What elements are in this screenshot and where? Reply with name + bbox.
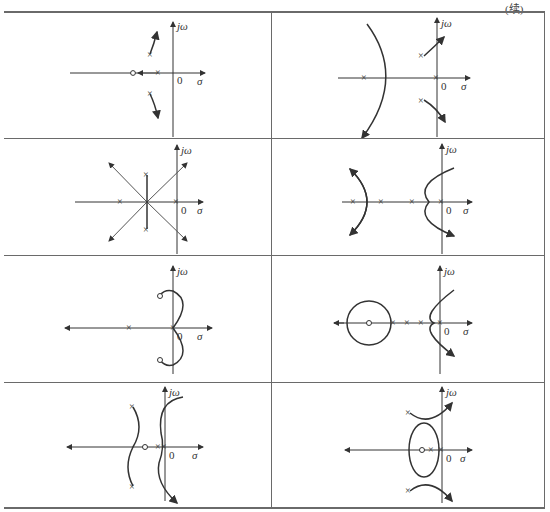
svg-text:σ: σ [460,452,466,464]
svg-text:jω: jω [442,265,455,277]
svg-text:jω: jω [439,17,452,29]
pole-marker: × [155,67,161,78]
svg-text:0: 0 [181,204,187,216]
svg-text:×: × [147,88,153,99]
svg-text:×: × [143,169,149,180]
svg-text:jω: jω [444,143,457,155]
svg-text:×: × [409,196,415,207]
root-locus-plot-r4c1: jω 0 σ × × × × [5,383,271,507]
svg-text:×: × [428,444,434,455]
svg-text:×: × [390,317,396,328]
svg-text:×: × [129,481,135,492]
root-locus-plot-r1c1: jω 0 σ × × × [5,12,271,138]
svg-text:0: 0 [446,452,452,464]
svg-text:×: × [433,72,439,83]
svg-text:×: × [418,50,424,61]
svg-text:×: × [129,401,135,412]
svg-text:σ: σ [463,204,469,216]
svg-text:σ: σ [192,449,198,461]
svg-text:×: × [126,322,132,333]
svg-text:×: × [350,196,356,207]
svg-text:×: × [418,317,424,328]
svg-text:×: × [405,485,411,496]
root-locus-plot-r3c1: jω 0 σ × × [5,256,271,382]
svg-text:×: × [361,72,367,83]
root-locus-plot-r4c2: jω 0 σ × × × × [272,383,544,507]
table-right-border [544,11,545,508]
svg-text:×: × [404,317,410,328]
origin-label: 0 [177,74,183,86]
svg-text:×: × [117,196,123,207]
svg-text:×: × [438,444,444,455]
svg-text:0: 0 [444,325,450,337]
table-bottom-border [4,507,545,509]
root-locus-plot-r2c1: jω 0 σ × × × × [5,139,271,255]
svg-text:jω: jω [167,386,180,398]
svg-text:×: × [155,441,161,452]
svg-text:jω: jω [175,265,188,277]
svg-text:0: 0 [446,204,452,216]
svg-text:×: × [405,407,411,418]
root-locus-plot-r3c2: jω 0 σ × × × × [272,256,544,382]
root-locus-plot-r2c2: jω 0 σ × × × × [272,139,544,255]
imag-axis-label: jω [175,20,188,32]
svg-text:0: 0 [169,449,175,461]
svg-text:×: × [438,196,444,207]
svg-text:×: × [173,196,179,207]
svg-text:jω: jω [179,144,192,156]
svg-text:σ: σ [461,80,467,92]
svg-text:×: × [378,196,384,207]
svg-text:jω: jω [444,386,457,398]
svg-text:σ: σ [463,325,469,337]
svg-text:σ: σ [197,204,203,216]
zero-marker [131,71,136,76]
svg-text:×: × [147,49,153,60]
svg-text:×: × [418,95,424,106]
svg-text:×: × [143,224,149,235]
svg-text:σ: σ [197,330,203,342]
real-axis-label: σ [197,75,203,87]
svg-text:0: 0 [441,80,447,92]
root-locus-plot-r1c2: jω 0 σ × × × × [272,12,544,138]
svg-text:×: × [437,317,443,328]
